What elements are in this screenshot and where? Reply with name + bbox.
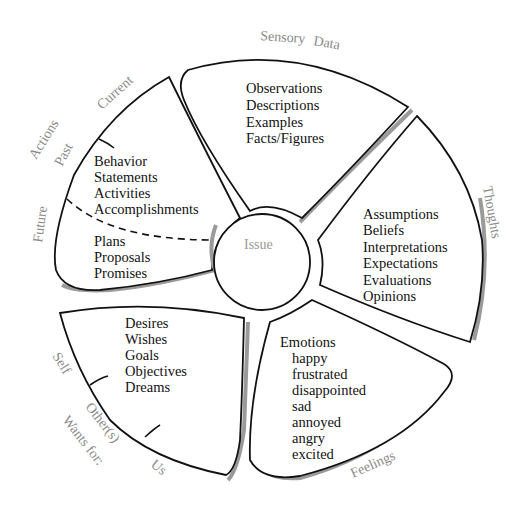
- feelings-item: excited: [292, 446, 335, 462]
- feelings-item: annoyed: [292, 414, 342, 430]
- sensory-outer-label: Sensory: [260, 28, 306, 46]
- us-label: Us: [148, 457, 169, 478]
- self-label: Self: [49, 350, 74, 377]
- actions-past-item: Activities: [94, 185, 151, 201]
- feelings-item: frustrated: [292, 366, 348, 382]
- future-label: Future: [30, 205, 50, 243]
- petal-feelings: Emotions happy frustrated disappointed s…: [250, 300, 452, 481]
- actions-past-item: Behavior: [94, 153, 147, 169]
- wants-item: Dreams: [125, 379, 170, 395]
- feelings-item: happy: [292, 350, 328, 366]
- wants-item: Wishes: [125, 331, 167, 347]
- sensory-item: Observations: [246, 80, 323, 96]
- wants-item: Objectives: [125, 363, 187, 379]
- thoughts-item: Interpretations: [363, 239, 448, 255]
- hub-label: Issue: [244, 237, 273, 252]
- thoughts-item: Expectations: [363, 255, 438, 271]
- issue-wheel-diagram: Observations Descriptions Examples Facts…: [0, 0, 523, 506]
- thoughts-item: Evaluations: [363, 272, 432, 288]
- feelings-heading: Emotions: [280, 334, 336, 350]
- wants-item: Goals: [125, 347, 159, 363]
- petal-wants: Desires Wishes Goals Objectives Dreams S…: [49, 307, 248, 480]
- wants-item: Desires: [125, 315, 169, 331]
- sensory-item: Examples: [246, 114, 304, 130]
- feelings-item: disappointed: [292, 382, 367, 398]
- thoughts-item: Opinions: [363, 288, 417, 304]
- hub-circle: [214, 214, 310, 310]
- thoughts-item: Assumptions: [363, 206, 439, 222]
- sensory-item: Facts/Figures: [246, 130, 324, 146]
- past-label: Past: [51, 141, 75, 169]
- data-outer-label: Data: [312, 33, 341, 52]
- feelings-item: angry: [292, 430, 326, 446]
- feelings-item: sad: [292, 398, 312, 414]
- thoughts-item: Beliefs: [363, 222, 404, 238]
- actions-future-item: Plans: [94, 233, 126, 249]
- actions-past-item: Accomplishments: [94, 201, 199, 217]
- actions-future-item: Promises: [94, 265, 148, 281]
- sensory-item: Descriptions: [246, 97, 320, 113]
- actions-future-item: Proposals: [94, 249, 151, 265]
- actions-past-item: Statements: [94, 169, 158, 185]
